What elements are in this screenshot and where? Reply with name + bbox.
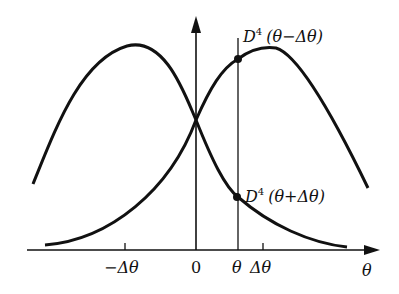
x-axis-arrow-icon — [364, 245, 380, 255]
left-curve — [33, 45, 347, 247]
y-axis-arrow-icon — [191, 16, 201, 33]
point-theta-plus-delta — [233, 193, 241, 201]
tick-label-theta: θ — [232, 258, 242, 277]
label-theta-minus-delta: D4(θ−Δθ) — [242, 26, 323, 46]
label-theta-plus-delta: D4(θ+Δθ) — [244, 186, 325, 206]
x-axis-label: θ — [362, 261, 372, 280]
tick-label-zero: 0 — [191, 258, 201, 277]
diagram-canvas: D4(θ−Δθ) D4(θ+Δθ) −Δθ 0 θ Δθ θ — [0, 0, 399, 294]
tick-label-delta: Δθ — [249, 258, 272, 277]
tick-label-neg-delta: −Δθ — [104, 258, 139, 277]
point-theta-minus-delta — [234, 55, 242, 63]
